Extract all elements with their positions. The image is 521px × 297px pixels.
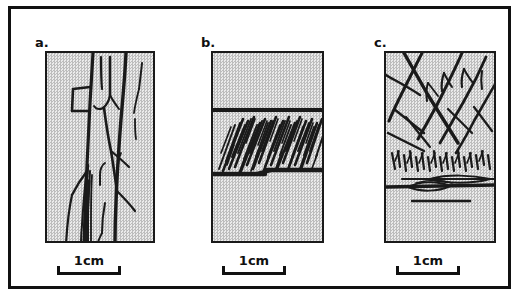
panel-c-scalebar-bar [396, 272, 460, 275]
panel-c-drawing [384, 51, 496, 243]
panel-b-scalebar-tick-right [283, 266, 286, 275]
panel-c-scalebar-tick-left [396, 266, 399, 275]
panel-a-scalebar-tick-left [57, 266, 60, 275]
panel-c-scalebar-tick-right [457, 266, 460, 275]
panel-b-scalebar-tick-left [222, 266, 225, 275]
panel-a-scalebar: 1cm [53, 253, 125, 283]
figure-plate: a. [0, 0, 521, 297]
panel-a-drawing [45, 51, 155, 243]
panel-a-scalebar-tick-right [118, 266, 121, 275]
panel-a-scalebar-bar [57, 272, 121, 275]
panel-b-scalebar-label: 1cm [218, 253, 290, 268]
figure-frame: a. [8, 6, 511, 289]
panel-c-scalebar-label: 1cm [392, 253, 464, 268]
panel-c-scalebar: 1cm [392, 253, 464, 283]
panel-a-scalebar-label: 1cm [53, 253, 125, 268]
panel-b-scalebar-bar [222, 272, 286, 275]
panel-b-scalebar: 1cm [218, 253, 290, 283]
panel-a-label: a. [35, 36, 49, 49]
panel-b-label: b. [201, 36, 215, 49]
panel-c-label: c. [374, 36, 387, 49]
panel-b-drawing [211, 51, 324, 243]
